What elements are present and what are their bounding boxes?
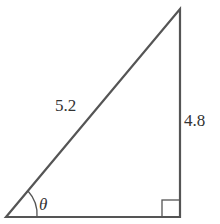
angle-theta-label: θ xyxy=(39,195,47,214)
right-triangle xyxy=(6,9,180,217)
angle-arc xyxy=(28,191,37,217)
right-angle-marker xyxy=(162,200,180,217)
hypotenuse-label: 5.2 xyxy=(55,96,76,115)
opposite-side-label: 4.8 xyxy=(184,111,205,130)
triangle-diagram: 5.2 4.8 θ xyxy=(0,0,220,224)
